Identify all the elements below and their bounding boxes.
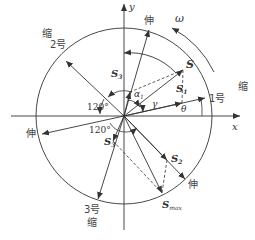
label-s3-lower: S3 [104, 136, 115, 148]
theta-arc [201, 99, 202, 116]
dashed-s2-to-smax [162, 160, 167, 193]
angle-label-lower: 120° [89, 125, 111, 135]
retract-label-right: 缩 [238, 80, 248, 92]
x-axis-label: x [232, 121, 238, 132]
angle-label-upper: 120° [87, 102, 109, 112]
vector-smax [124, 116, 162, 193]
label-smax: Smax [162, 199, 183, 211]
retract-label-upper-left: 缩 [42, 27, 52, 39]
vector-s2 [124, 116, 167, 160]
angle-arc-lower [110, 123, 137, 132]
label-s3-upper: S3 [111, 68, 122, 80]
alpha-arc [128, 100, 140, 107]
actuator-3-label: 3号 [84, 204, 100, 215]
actuator-1-label: 1号 [209, 93, 225, 104]
extend-label-top: 伸 [144, 15, 154, 26]
vector-diagram: x y ω 120° 120° α1 γ θ S S1 S3 S3 S2 Sma… [0, 0, 255, 240]
inner-rotation-arc [124, 53, 176, 73]
actuator-2-label: 2号 [50, 39, 66, 50]
label-s2: S2 [171, 153, 182, 165]
label-s: S [186, 58, 194, 71]
origin-point [123, 115, 125, 117]
gamma-arc [140, 103, 143, 112]
omega-label: ω [175, 12, 184, 25]
retract-label-bottom: 缩 [87, 216, 97, 228]
dashed-s3-to-smax [113, 141, 162, 193]
alpha-label: α1 [134, 89, 144, 100]
gamma-label: γ [152, 99, 158, 109]
extend-label-left: 伸 [26, 128, 36, 139]
theta-label: θ [181, 104, 187, 114]
angle-arc-upper [108, 91, 132, 97]
label-s1: S1 [176, 83, 187, 95]
y-axis-label: y [128, 1, 135, 12]
extend-label-bottom-right: 伸 [188, 179, 198, 190]
